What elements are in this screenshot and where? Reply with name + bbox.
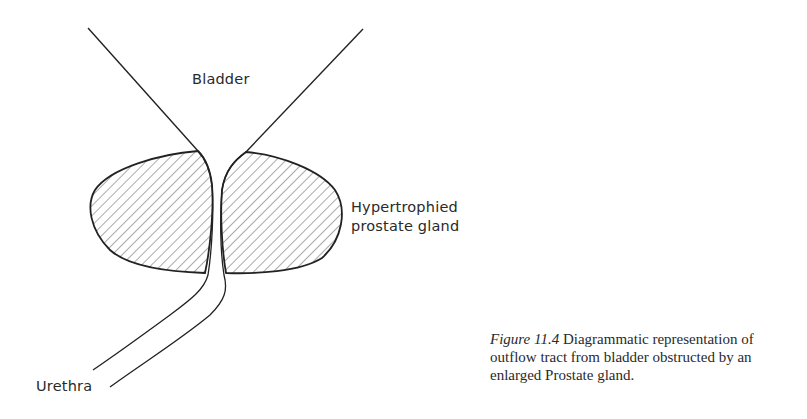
prostate-lobe-right <box>221 152 342 273</box>
label-prostate-line2: prostate gland <box>351 217 459 236</box>
figure-caption: Figure 11.4 Diagrammatic representation … <box>490 330 800 384</box>
label-prostate-line1: Hypertrophied <box>351 198 458 217</box>
label-bladder: Bladder <box>192 70 250 89</box>
label-urethra: Urethra <box>36 377 92 396</box>
figure-number: Figure 11.4 <box>490 331 559 347</box>
bladder-wall-right <box>246 29 363 152</box>
bladder-wall-left <box>88 28 198 151</box>
prostate-lobe-left <box>90 151 212 273</box>
